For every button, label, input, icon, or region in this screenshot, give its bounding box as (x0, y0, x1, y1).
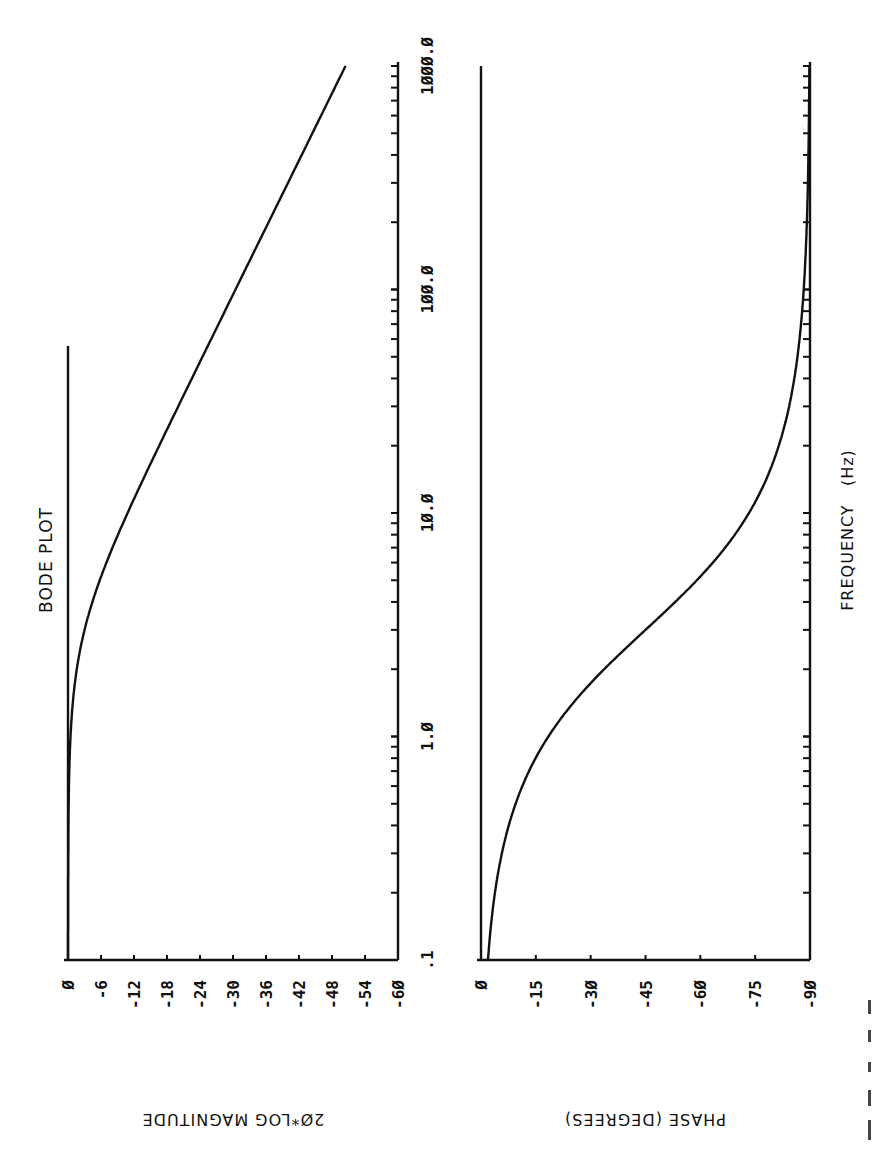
bode-plot-svg: BODE PLOT FREQUENCY (Hz) 2Ø*LOG MAGNITUD… (0, 0, 879, 1151)
magnitude-value-tick-label: -36 (257, 980, 276, 1009)
phase-panel: Ø-15-3Ø-45-6Ø-75-9Ø (472, 62, 820, 1009)
magnitude-value-tick-label: -6Ø (389, 980, 408, 1009)
magnitude-value-tick-label: -12 (125, 980, 144, 1009)
magnitude-panel: Ø-6-12-18-24-30-36-42-48-54-6Ø (59, 62, 408, 1009)
magnitude-value-tick-label: -6 (92, 980, 111, 999)
phase-value-tick-label: -15 (527, 980, 546, 1009)
magnitude-value-tick-label: -24 (191, 980, 210, 1009)
frequency-tick-labels: .11.Ø1Ø.Ø1ØØ.Ø1ØØØ.Ø (418, 37, 437, 970)
phase-value-tick-label: -45 (637, 980, 656, 1009)
frequency-tick-label: 1.Ø (418, 722, 437, 751)
cropped-caption-marks (868, 1000, 871, 1140)
magnitude-axis-label: 2Ø*LOG MAGNITUDE (142, 1110, 325, 1129)
magnitude-value-tick-label: -30 (224, 980, 243, 1009)
phase-value-tick-label: Ø (472, 980, 491, 991)
magnitude-value-tick-label: -54 (356, 980, 375, 1009)
bode-plot-figure: BODE PLOT FREQUENCY (Hz) 2Ø*LOG MAGNITUD… (0, 0, 879, 1151)
phase-axis-label: PHASE (DEGREES) (564, 1110, 726, 1129)
magnitude-value-tick-label: Ø (59, 980, 78, 991)
magnitude-value-tick-label: -42 (290, 980, 309, 1009)
phase-value-tick-label: -9Ø (801, 980, 820, 1009)
chart-title: BODE PLOT (36, 507, 56, 613)
phase-value-tick-label: -3Ø (582, 980, 601, 1009)
phase-curve (488, 66, 809, 960)
frequency-tick-label: .1 (418, 950, 437, 969)
phase-value-tick-label: -75 (746, 980, 765, 1009)
frequency-tick-label: 1ØØØ.Ø (418, 37, 437, 95)
phase-value-tick-label: -6Ø (691, 980, 710, 1009)
x-axis-label: FREQUENCY (Hz) (838, 449, 857, 611)
frequency-tick-label: 1ØØ.Ø (418, 265, 437, 314)
magnitude-value-tick-label: -48 (323, 980, 342, 1009)
magnitude-value-tick-label: -18 (158, 980, 177, 1009)
magnitude-curve (68, 66, 346, 960)
frequency-tick-label: 1Ø.Ø (418, 493, 437, 532)
